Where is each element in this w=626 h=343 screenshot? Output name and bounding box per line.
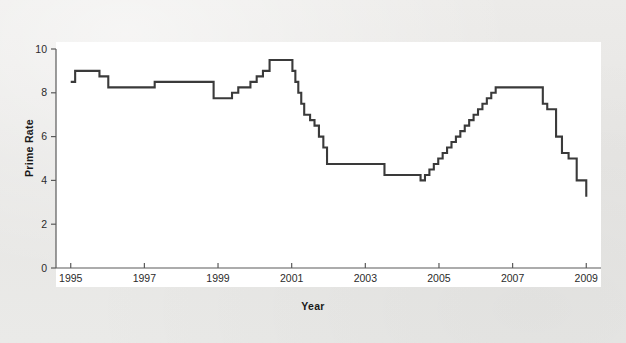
- x-axis-tick-label: 1999: [206, 272, 230, 284]
- x-axis-tick-label: 2009: [575, 272, 599, 284]
- x-axis-ticks: [71, 263, 587, 268]
- y-axis-tick-label: 10: [35, 43, 47, 55]
- x-axis-tick-labels: 19951997199920012003200520072009: [59, 272, 598, 284]
- y-axis-title: Prime Rate: [23, 98, 35, 198]
- x-axis-tick-label: 1995: [59, 272, 83, 284]
- y-axis-tick-labels: 0246810: [35, 43, 47, 274]
- y-axis-tick-label: 8: [41, 86, 47, 98]
- y-axis-tick-label: 0: [41, 262, 47, 274]
- chart-figure: 0246810 19951997199920012003200520072009…: [13, 12, 613, 322]
- data-series-group: [71, 60, 587, 197]
- x-axis-tick-label: 2007: [501, 272, 525, 284]
- x-axis-tick-label: 1997: [133, 272, 157, 284]
- y-axis-tick-label: 6: [41, 130, 47, 142]
- x-axis-tick-label: 2003: [354, 272, 378, 284]
- x-axis-title: Year: [13, 300, 613, 312]
- x-axis-tick-label: 2001: [280, 272, 304, 284]
- y-axis-tick-label: 2: [41, 218, 47, 230]
- y-axis-tick-label: 4: [41, 174, 47, 186]
- prime-rate-series-line: [71, 60, 587, 197]
- prime-rate-line-chart: 0246810 19951997199920012003200520072009: [13, 12, 613, 322]
- x-axis-tick-label: 2005: [427, 272, 451, 284]
- y-axis-ticks: [51, 49, 56, 268]
